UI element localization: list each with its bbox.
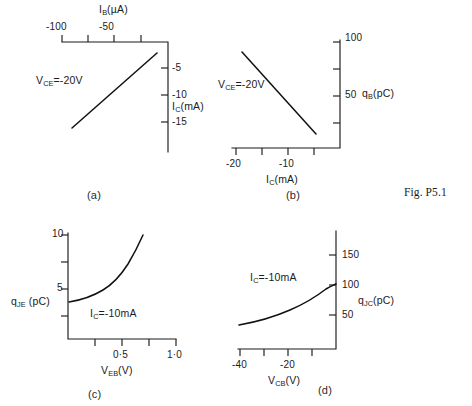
panel-a: IB(µA) -100 -50 -5 -10 -15 IC(mA) VCE=-2… — [0, 0, 236, 203]
panel-a-ytick-1: -5 — [172, 62, 181, 73]
panel-b-annotation: VCE=-20V — [218, 78, 265, 92]
panel-b-ytick-1: 100 — [345, 32, 362, 43]
panel-d-ytick-3: 50 — [342, 309, 354, 320]
panel-d-label: (d) — [318, 384, 332, 396]
panel-b-y-axis-title: qB(pC) — [362, 87, 394, 101]
panel-a-annotation: VCE=-20V — [36, 74, 83, 88]
panel-d-ytick-1: 150 — [342, 249, 359, 260]
panel-d-ytick-2: 100 — [342, 279, 359, 290]
panel-d-xtick-1: -40 — [232, 359, 247, 370]
panel-a-xtick-2: -50 — [99, 21, 114, 32]
panel-c-xtick-2: 1·0 — [167, 349, 182, 360]
panel-c-annotation: IC=-10mA — [90, 307, 137, 321]
figure-p5-1: IB(µA) -100 -50 -5 -10 -15 IC(mA) VCE=-2… — [0, 0, 472, 406]
panel-d: 150 100 50 qJC(pC) -40 -20 VCB(V) IC=-10… — [236, 203, 472, 406]
panel-b-xtick-1: -20 — [226, 158, 241, 169]
panel-a-xtick-1: -100 — [46, 21, 67, 32]
panel-b-x-axis-title: IC(mA) — [266, 173, 298, 187]
panel-d-data-curve — [239, 284, 336, 325]
panel-d-x-axis-title: VCB(V) — [268, 374, 300, 388]
panel-b-ytick-2: 50 — [345, 89, 357, 100]
panel-b-label: (b) — [286, 189, 300, 201]
panel-a-data-line — [72, 53, 157, 128]
panel-c-ytick-2: 5 — [57, 282, 63, 293]
panel-c-ytick-1: 10 — [52, 228, 64, 239]
panel-b: 100 50 qB(pC) -20 -10 IC(mA) VCE=-20V (b… — [210, 0, 472, 203]
panel-a-label: (a) — [87, 189, 101, 201]
panel-a-ytick-3: -15 — [172, 116, 187, 127]
panel-d-y-axis-title: qJC(pC) — [358, 294, 394, 308]
panel-a-x-axis-title: IB(µA) — [99, 3, 128, 17]
panel-c-y-axis-title: qJE (pC) — [11, 295, 50, 309]
panel-d-xtick-2: -20 — [280, 359, 295, 370]
panel-c-x-axis-title: VEB(V) — [101, 364, 133, 378]
panel-b-xtick-2: -10 — [279, 158, 294, 169]
panel-a-ytick-2: -10 — [172, 89, 187, 100]
panel-c-xtick-1: 0·5 — [113, 349, 128, 360]
panel-a-y-axis-title: IC(mA) — [172, 100, 204, 114]
panel-d-annotation: IC=-10mA — [250, 271, 297, 285]
panel-b-data-line — [242, 52, 316, 134]
panel-c-label: (c) — [88, 388, 101, 400]
figure-caption: Fig. P5.1 — [404, 186, 447, 198]
panel-c: 10 5 qJE (pC) 0·5 1·0 VEB(V) IC=-10mA (c… — [0, 203, 236, 406]
panel-c-data-curve — [69, 235, 143, 302]
panel-b-axes — [210, 0, 472, 203]
